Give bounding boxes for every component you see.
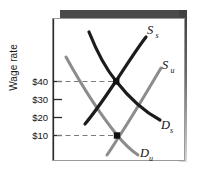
curve-label-demand-unskilled: D u	[139, 146, 153, 163]
curve-label-du-sub: u	[149, 154, 153, 163]
curve-label-su-sub: u	[171, 66, 175, 75]
curve-label-demand-skilled: D s	[160, 118, 173, 135]
chart-figure: Wage rate $40 $30 $20 $10 S s	[0, 0, 217, 175]
curve-label-ds-sub: s	[170, 126, 173, 135]
curve-label-su-main: S	[162, 58, 169, 72]
curve-label-ss-sub: s	[156, 31, 159, 40]
curve-label-supply-unskilled: S u	[162, 58, 175, 75]
curve-demand-unskilled	[66, 57, 138, 155]
curve-label-du-main: D	[139, 146, 149, 160]
chart-canvas: S s S u D s D u	[0, 0, 217, 175]
equilibrium-marker-unskilled	[114, 132, 120, 138]
curve-label-ss-main: S	[147, 23, 154, 37]
equilibrium-marker-skilled	[113, 78, 119, 84]
curve-label-ds-main: D	[160, 118, 170, 132]
curve-label-supply-skilled: S s	[147, 23, 159, 40]
